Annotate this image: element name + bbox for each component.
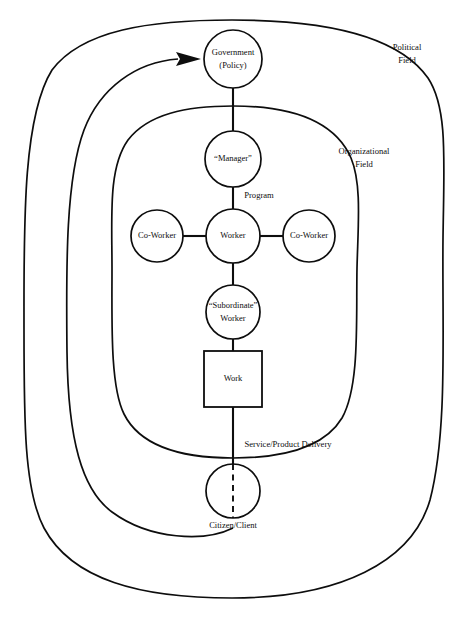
organizational-field-label-line2: Field	[355, 159, 373, 169]
political-field-label-line1: Political	[393, 42, 422, 52]
node-work[interactable]: Work	[204, 351, 262, 407]
node-subordinate-worker-label-line2: Worker	[220, 313, 245, 323]
node-coworker-right-label: Co-Worker	[290, 230, 328, 240]
organizational-field-label-line1: Organizational	[339, 146, 391, 156]
node-coworker-left-label: Co-Worker	[138, 230, 176, 240]
citizen-to-government-feedback-path	[67, 59, 233, 536]
node-coworker-right[interactable]: Co-Worker	[283, 210, 335, 262]
edge-label-program: Program	[244, 190, 274, 200]
edge-label-service-product-delivery: Service/Product Delivery	[244, 439, 332, 449]
service-delivery-diagram: Government (Policy) “Manager” Co-Worker …	[0, 0, 461, 622]
node-work-label: Work	[224, 373, 243, 383]
node-citizen-client-label: Citizen/Client	[209, 520, 257, 530]
node-worker-label: Worker	[220, 230, 245, 240]
node-government-label-line1: Government	[212, 47, 255, 57]
feedback-arrowhead-icon	[176, 52, 201, 66]
node-government[interactable]: Government (Policy)	[204, 30, 262, 88]
node-subordinate-worker-label-line1: “Subordinate”	[209, 300, 258, 310]
node-citizen-client[interactable]: Citizen/Client	[206, 464, 260, 530]
node-worker[interactable]: Worker	[206, 209, 260, 263]
node-coworker-left[interactable]: Co-Worker	[131, 210, 183, 262]
political-field-label-line2: Field	[398, 55, 416, 65]
node-manager-label-line1: “Manager”	[214, 153, 252, 163]
node-government-label-line2: (Policy)	[219, 60, 247, 70]
node-subordinate-worker[interactable]: “Subordinate” Worker	[206, 285, 260, 339]
node-manager[interactable]: “Manager”	[205, 131, 261, 187]
diagram-canvas: Government (Policy) “Manager” Co-Worker …	[0, 0, 461, 622]
